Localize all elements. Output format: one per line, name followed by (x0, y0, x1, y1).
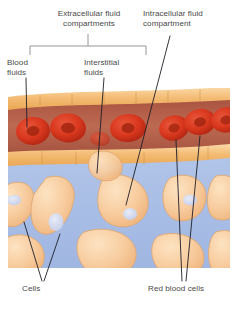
label-extracellular-fluid-compartments: Extracellular fluid compartments (31, 9, 147, 28)
figure-canvas: Extracellular fluid compartments Intrace… (0, 0, 238, 313)
leader-rbc-b (186, 136, 200, 281)
annotation-layer (0, 0, 238, 313)
label-blood-fluids: Blood fluids (7, 58, 67, 77)
label-cells: Cells (22, 284, 82, 294)
leader-rbc-a (176, 140, 182, 281)
leader-cells-b (44, 234, 60, 281)
label-interstitial-fluids: Interstitial fluids (84, 58, 146, 77)
label-intracellular-fluid-compartment: Intracellular fluid compartment (143, 9, 235, 28)
label-red-blood-cells: Red blood cells (148, 284, 234, 294)
leader-interstitial-fluids (97, 78, 104, 173)
leader-blood-fluids (26, 78, 27, 127)
extracellular-bracket (30, 34, 146, 55)
leader-cells-a (24, 222, 42, 281)
